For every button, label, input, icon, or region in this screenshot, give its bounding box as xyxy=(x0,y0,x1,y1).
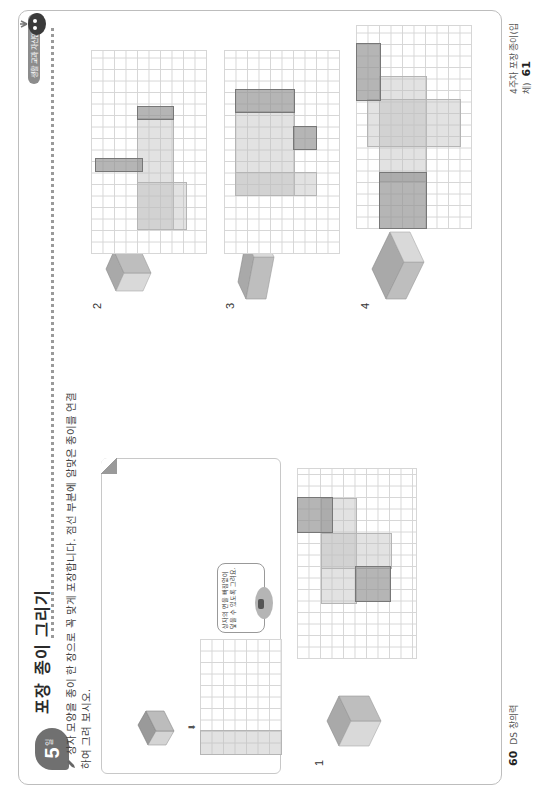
net-face-dark xyxy=(356,43,381,101)
net-face-dark xyxy=(297,497,333,533)
box-icon xyxy=(364,224,434,304)
footer-left-label: DS 창의력 xyxy=(509,705,519,745)
net-face-dark xyxy=(235,89,295,113)
net-face-dark xyxy=(355,566,391,602)
problem-4-net-grid xyxy=(356,25,472,229)
problem-2-net-grid xyxy=(91,50,207,254)
net-face xyxy=(200,730,282,755)
net-face xyxy=(321,533,392,569)
problem-3-net-grid xyxy=(224,50,340,254)
problem-number: 2 xyxy=(91,303,103,309)
page-fold-corner xyxy=(101,458,117,474)
mascot-icon xyxy=(19,9,49,39)
page-number-left: 60 xyxy=(507,751,520,766)
example-box: ⬇ 상자의 면을 빠짐없이 덮을 수 있도록 그려요. xyxy=(101,458,281,774)
day-number: 5 xyxy=(41,747,64,758)
footer-left: 60DS 창의력 xyxy=(507,705,520,766)
page-title: 포장 종이 그리기 xyxy=(29,589,53,714)
net-face xyxy=(235,172,317,196)
net-face-dark xyxy=(95,158,143,172)
example-net-grid xyxy=(200,639,282,755)
net-face-dark xyxy=(293,126,317,150)
workbook-page: 5 일 포장 종이 그리기 생활 교과 자신만들기 상자 모양을 종이 한 장으… xyxy=(18,10,502,785)
net-face-dark xyxy=(379,172,427,229)
down-arrow-icon: ⬇ xyxy=(187,723,197,731)
footer-right-label: 4주차 포장 종이(입체) xyxy=(509,23,532,94)
footer-right: 4주차 포장 종이(입체)61 xyxy=(507,11,533,94)
example-box-icon xyxy=(130,705,180,755)
cube-icon xyxy=(319,686,389,756)
net-face-dark xyxy=(137,106,174,120)
net-face xyxy=(137,182,187,230)
problem-number: 1 xyxy=(313,760,325,766)
day-unit: 일 xyxy=(43,739,54,746)
instruction-text: 상자 모양을 종이 한 장으로 꼭 맞게 포장합니다. 점선 부분에 알맞은 종… xyxy=(64,389,94,769)
dotted-divider xyxy=(51,28,54,638)
net-face xyxy=(367,99,461,147)
pencil-icon xyxy=(66,759,76,769)
problem-1-net-grid xyxy=(297,468,417,659)
hippo-mascot-icon xyxy=(252,583,274,623)
page-number-right: 61 xyxy=(520,61,533,76)
